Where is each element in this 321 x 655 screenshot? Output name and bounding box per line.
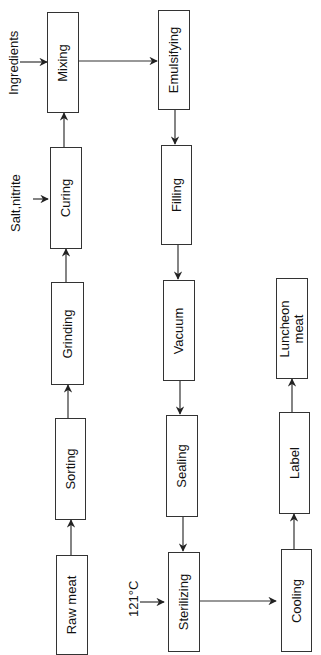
- step-sorting: Sorting: [55, 418, 86, 520]
- step-label: Vacuum: [172, 307, 186, 354]
- step-label: Emulsifying: [167, 27, 181, 93]
- step-luncheon-meat: Luncheon meat: [276, 278, 308, 379]
- input-salt-nitrite-label: Salt,nitrite: [8, 174, 23, 232]
- step-label: Luncheon meat: [278, 299, 306, 359]
- step-label: Grinding: [61, 309, 75, 358]
- step-label: Raw meat: [65, 576, 79, 635]
- step-cooling: Cooling: [281, 549, 312, 652]
- input-temperature-label: 121°C: [126, 581, 141, 617]
- step-filling: Filling: [161, 145, 192, 245]
- step-label: Curing: [59, 179, 73, 217]
- step-vacuum: Vacuum: [163, 280, 195, 381]
- step-emulsifying: Emulsifying: [158, 10, 190, 110]
- step-sterilizing: Sterilizing: [168, 552, 200, 652]
- step-label: Sorting: [64, 448, 78, 489]
- step-label: Mixing: [56, 44, 70, 82]
- step-grinding: Grinding: [51, 282, 84, 385]
- step-label: Filling: [170, 178, 184, 212]
- step-curing: Curing: [50, 147, 82, 249]
- step-label: Sealing: [175, 444, 189, 487]
- input-ingredients-label: Ingredients: [6, 31, 21, 95]
- step-sealing: Sealing: [166, 415, 198, 517]
- step-raw-meat: Raw meat: [56, 555, 88, 655]
- step-mixing: Mixing: [47, 12, 79, 113]
- step-label-box: Label: [279, 412, 310, 514]
- step-label: Sterilizing: [177, 574, 191, 630]
- step-label: Cooling: [290, 578, 304, 622]
- step-label: Label: [288, 447, 302, 479]
